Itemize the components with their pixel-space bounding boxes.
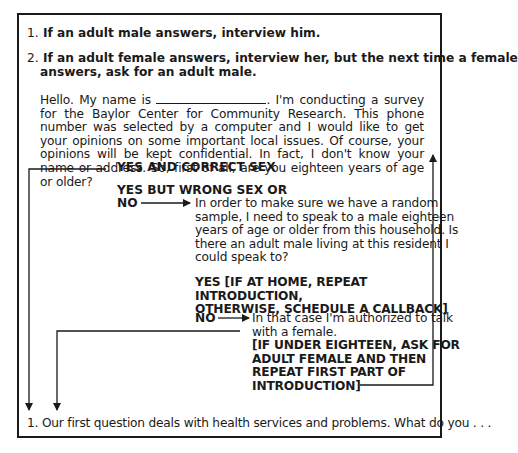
arrow-female-to-question (57, 331, 240, 410)
arrow-repeat-introduction (360, 155, 433, 385)
arrow-correct-sex-to-question (29, 169, 106, 410)
